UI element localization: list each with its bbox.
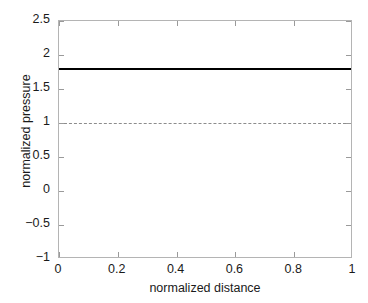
series-line-0 xyxy=(59,68,351,70)
y-tick-mark xyxy=(59,89,64,90)
y-tick-mark xyxy=(59,157,64,158)
y-tick-mark-right xyxy=(346,157,351,158)
y-tick-label: −0.5 xyxy=(0,216,50,230)
y-tick-mark-right xyxy=(346,55,351,56)
x-tick-mark xyxy=(59,252,60,257)
y-tick-mark-right xyxy=(346,225,351,226)
y-tick-mark-right xyxy=(346,123,351,124)
y-tick-label: 2.5 xyxy=(0,12,50,26)
series-line-1 xyxy=(59,123,351,124)
x-tick-label: 0.6 xyxy=(209,262,259,276)
x-tick-mark xyxy=(177,252,178,257)
x-tick-mark-top xyxy=(235,21,236,26)
figure-canvas: −1−0.500.511.522.5 00.20.40.60.81 normal… xyxy=(0,0,368,303)
plot-area xyxy=(58,20,352,258)
y-tick-mark xyxy=(59,123,64,124)
y-tick-mark-right xyxy=(346,21,351,22)
x-tick-label: 0.2 xyxy=(92,262,142,276)
y-tick-mark-right xyxy=(346,89,351,90)
y-tick-mark xyxy=(59,191,64,192)
x-tick-mark-top xyxy=(294,21,295,26)
x-tick-mark-top xyxy=(59,21,60,26)
x-tick-mark xyxy=(235,252,236,257)
y-tick-mark-right xyxy=(346,191,351,192)
y-tick-mark xyxy=(59,225,64,226)
x-tick-label: 1 xyxy=(327,262,368,276)
y-axis-title: normalized pressure xyxy=(19,51,33,211)
x-tick-mark xyxy=(294,252,295,257)
y-tick-mark xyxy=(59,55,64,56)
x-tick-label: 0.4 xyxy=(151,262,201,276)
x-axis-title: normalized distance xyxy=(58,281,352,295)
x-tick-mark-top xyxy=(177,21,178,26)
x-tick-label: 0.8 xyxy=(268,262,318,276)
x-tick-label: 0 xyxy=(33,262,83,276)
x-tick-mark-top xyxy=(118,21,119,26)
x-tick-mark xyxy=(118,252,119,257)
